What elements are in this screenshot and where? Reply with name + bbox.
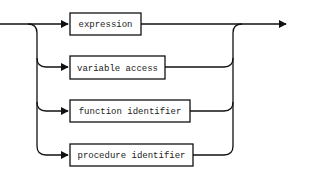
left-rail [28,24,68,155]
branch-function-identifier [37,102,68,111]
alt-label: function identifier [79,107,182,117]
alt-function-identifier: function identifier [70,100,190,122]
syntax-diagram: expression variable access function iden… [0,0,313,180]
merge-function-identifier [190,102,233,111]
merge-variable-access [165,58,233,67]
alt-label: procedure identifier [77,151,185,161]
alt-variable-access: variable access [70,56,165,79]
alt-procedure-identifier: procedure identifier [70,144,193,166]
right-rail [193,24,242,155]
alt-label: variable access [77,64,158,74]
alt-label: expression [78,20,132,30]
branch-variable-access [37,58,68,67]
alt-expression: expression [70,13,141,35]
